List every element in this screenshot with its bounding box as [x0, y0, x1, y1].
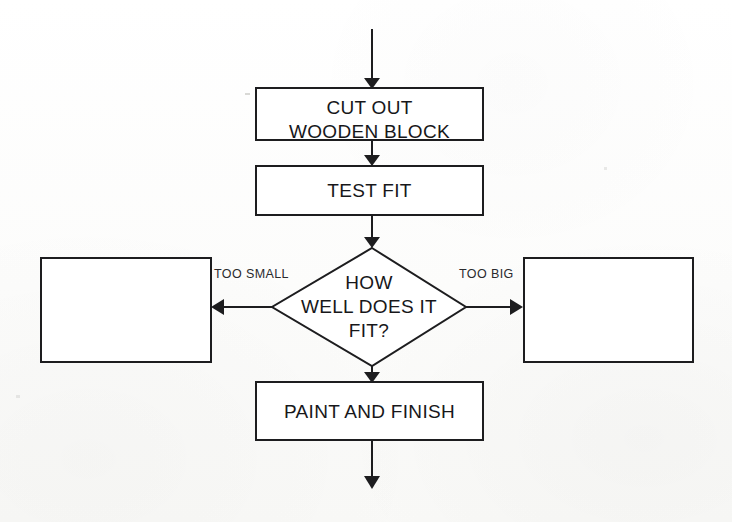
flowchart-graphics [0, 0, 732, 522]
connector-test-to-decision [364, 215, 380, 248]
node-test-fit [256, 166, 483, 215]
connector-decision-to-paint [364, 366, 380, 383]
node-how-well-does-it-fit [272, 248, 466, 366]
connector-too-small [211, 299, 272, 315]
entry-arrow [364, 29, 380, 89]
exit-arrow [364, 440, 380, 489]
connector-cut-to-test [364, 140, 380, 166]
flowchart-canvas: CUT OUT WOODEN BLOCK TEST FIT HOW WELL D… [0, 0, 732, 522]
node-too-big-outcome [524, 258, 693, 362]
edge-label-too-big: TOO BIG [459, 267, 514, 281]
node-cut-out-wooden-block [256, 88, 483, 140]
node-too-small-outcome [41, 258, 211, 362]
connector-too-big [466, 299, 523, 315]
edge-label-too-small: TOO SMALL [214, 267, 289, 281]
node-paint-and-finish [256, 382, 483, 440]
